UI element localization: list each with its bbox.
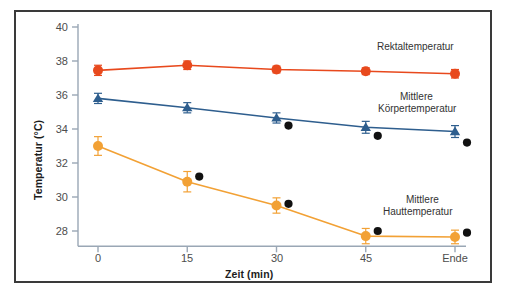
- data-point-black: [284, 122, 292, 130]
- data-point-circle: [182, 177, 192, 187]
- data-point-black: [374, 227, 382, 235]
- data-point-circle: [361, 66, 371, 76]
- data-point-black: [463, 139, 471, 147]
- chart-plot-area: [0, 0, 507, 295]
- data-point-black: [374, 132, 382, 140]
- data-point-circle: [361, 231, 371, 241]
- data-point-black: [195, 173, 203, 181]
- chart-axes: [72, 24, 466, 252]
- data-point-circle: [182, 60, 192, 70]
- data-point-circle: [272, 65, 282, 75]
- data-point-circle: [93, 141, 103, 151]
- data-point-circle: [93, 65, 103, 75]
- chart-series: [93, 60, 471, 244]
- data-point-circle: [450, 232, 460, 242]
- series-line: [98, 146, 455, 237]
- data-point-circle: [450, 69, 460, 79]
- data-point-black: [463, 229, 471, 237]
- data-point-circle: [272, 201, 282, 211]
- data-point-triangle: [93, 93, 103, 102]
- data-point-black: [284, 200, 292, 208]
